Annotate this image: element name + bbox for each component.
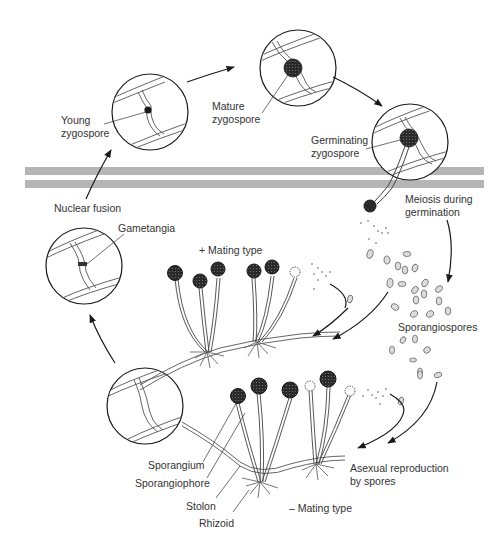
gametangia-contact-circle [106,368,190,444]
stolon-label: Stolon [186,500,216,513]
arrow-contact-to-gametangia [90,315,115,363]
arrow-to-plus-colony-2 [333,292,388,339]
rhizoid-label: Rhizoid [199,517,234,530]
young-zygospore-icon [144,106,151,113]
arrow-to-minus-colony-2 [388,382,437,443]
asexual-reproduction-label: Asexual reproductionby spores [350,462,449,487]
germ-sporangium-icon [364,200,377,213]
meiosis-spore-dots [360,220,389,244]
minus-mating-type-label: – Mating type [289,502,352,515]
plus-rhizoids [190,342,276,368]
sporangiophore-label: Sporangiophore [135,477,210,490]
meiosis-label: Meiosis duringgermination [405,193,473,218]
germinating-zygospore-label: Germinatingzygospore [311,134,368,159]
sporangiospores-label: Sporangiospores [398,321,477,334]
arrow-to-minus-colony-1 [358,394,404,448]
plus-mating-type-label: + Mating type [199,244,262,257]
arrow-spore-curve [330,284,346,308]
sporangium-label: Sporangium [148,459,205,472]
rhizopus-life-cycle-diagram: Youngzygospore Maturezygospore Germinati… [0,0,504,550]
young-zygospore-label: Youngzygospore [61,114,109,139]
arrow-meiosis-to-spores [447,220,451,282]
gametangia-circle [44,228,126,304]
arrow-young-to-mature [187,67,234,82]
mature-zygospore-label: Maturezygospore [212,100,260,125]
arrow-mature-to-germinating [333,77,382,106]
minus-sporangia [231,371,356,404]
nuclear-fusion-label: Nuclear fusion [54,202,121,215]
mature-zygospore-icon [284,59,302,77]
germinating-zygospore-icon [400,129,418,147]
young-zygospore-circle [104,74,190,150]
gametangia-label: Gametangia [118,222,175,235]
germinating-zygospore-circle [366,104,452,204]
plus-sporangia [168,260,301,288]
mature-zygospore-circle [256,30,338,113]
